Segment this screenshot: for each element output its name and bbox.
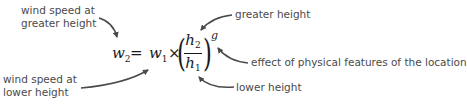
- annotation-arrows: [0, 0, 467, 107]
- arrow-to-h2: [201, 15, 232, 30]
- arrow-to-h1: [199, 77, 234, 87]
- arrow-to-w2: [99, 18, 117, 37]
- arrow-to-w1: [81, 70, 148, 88]
- arrow-to-g: [218, 48, 248, 63]
